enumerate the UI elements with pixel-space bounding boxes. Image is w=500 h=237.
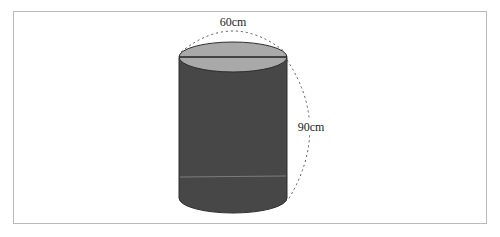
height-label: 90cm <box>298 120 325 134</box>
cylinder-diagram: 60cm 90cm <box>0 0 500 237</box>
diameter-label: 60cm <box>220 15 247 29</box>
cylinder-body <box>179 58 287 213</box>
